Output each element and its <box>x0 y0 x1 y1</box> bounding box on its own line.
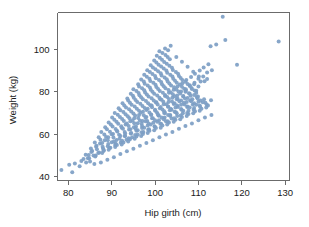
data-point <box>186 65 190 69</box>
data-point <box>123 130 127 134</box>
data-point <box>106 138 110 142</box>
data-point <box>173 101 177 105</box>
data-point <box>156 112 160 116</box>
data-point <box>192 93 196 97</box>
x-axis-title: Hip girth (cm) <box>144 207 201 218</box>
data-point <box>123 134 127 138</box>
data-point <box>127 136 131 140</box>
data-point <box>89 147 93 151</box>
data-point <box>125 97 129 101</box>
x-tick-label: 110 <box>191 187 206 198</box>
data-point <box>107 120 111 124</box>
data-point <box>174 55 178 59</box>
data-point <box>101 149 105 153</box>
y-tick-label: 40 <box>39 171 50 182</box>
data-point <box>179 113 183 117</box>
data-point <box>117 106 121 110</box>
data-point <box>89 150 93 154</box>
data-point <box>67 163 71 167</box>
scatter-plot-screenshot: 8090100110120130 406080100 Hip girth (cm… <box>0 0 309 227</box>
data-point <box>189 75 193 79</box>
data-point <box>153 125 157 129</box>
data-point <box>118 152 122 156</box>
data-point <box>209 44 213 48</box>
data-point <box>84 161 88 165</box>
data-point <box>144 119 148 123</box>
scatter-plot-figure: 8090100110120130 406080100 Hip girth (cm… <box>0 0 309 227</box>
data-point <box>111 136 115 140</box>
data-point <box>214 43 218 47</box>
data-point <box>202 65 206 69</box>
data-point <box>95 144 99 148</box>
data-point <box>139 77 143 81</box>
data-point <box>106 142 110 146</box>
data-point <box>131 147 135 151</box>
data-point <box>183 90 187 94</box>
data-point <box>101 145 105 149</box>
data-point <box>199 80 203 84</box>
data-point <box>110 116 114 120</box>
data-point <box>99 161 103 165</box>
data-point <box>162 109 166 113</box>
data-point <box>205 71 209 75</box>
data-point <box>179 99 183 103</box>
data-point <box>99 130 103 134</box>
data-point <box>73 162 77 166</box>
data-point <box>140 124 144 128</box>
data-point <box>79 159 83 163</box>
data-point <box>159 122 163 126</box>
data-point <box>93 140 97 144</box>
data-point <box>209 98 213 102</box>
data-point <box>87 156 91 160</box>
data-point <box>223 38 227 42</box>
data-point <box>136 82 140 86</box>
data-point <box>192 108 196 112</box>
data-point <box>277 39 281 43</box>
data-point <box>94 154 98 158</box>
data-point <box>108 146 112 150</box>
data-point <box>190 87 194 91</box>
data-point <box>149 63 153 67</box>
data-point <box>138 144 142 148</box>
data-point <box>157 49 161 53</box>
data-point <box>100 141 104 145</box>
data-point <box>205 77 209 81</box>
data-point <box>198 105 202 109</box>
data-point <box>142 73 146 77</box>
data-point <box>129 92 133 96</box>
data-point <box>203 116 207 120</box>
data-point <box>221 15 225 19</box>
data-point <box>146 128 150 132</box>
data-point <box>209 113 213 117</box>
data-point <box>78 164 82 168</box>
data-point <box>180 60 184 64</box>
data-point <box>140 130 144 134</box>
data-point <box>188 92 192 96</box>
data-point <box>166 105 170 109</box>
data-point <box>205 102 209 106</box>
data-point <box>210 68 214 72</box>
y-tick-label: 60 <box>39 129 50 140</box>
data-point <box>125 149 129 153</box>
data-point <box>150 116 154 120</box>
data-point <box>103 125 107 129</box>
data-point <box>183 124 187 128</box>
data-point <box>105 158 109 162</box>
data-point <box>155 54 159 58</box>
data-point <box>235 63 239 67</box>
x-tick-label: 80 <box>63 187 74 198</box>
data-point <box>198 69 202 73</box>
data-point <box>117 133 121 137</box>
y-tick-label: 80 <box>39 86 50 97</box>
data-point <box>134 127 138 131</box>
data-point <box>196 118 200 122</box>
data-point <box>186 96 190 100</box>
data-point <box>170 130 174 134</box>
data-point <box>97 135 101 139</box>
data-point <box>201 75 205 79</box>
data-point <box>112 155 116 159</box>
data-point <box>177 127 181 131</box>
data-point <box>151 138 155 142</box>
data-point <box>152 58 156 62</box>
data-point <box>114 142 118 146</box>
